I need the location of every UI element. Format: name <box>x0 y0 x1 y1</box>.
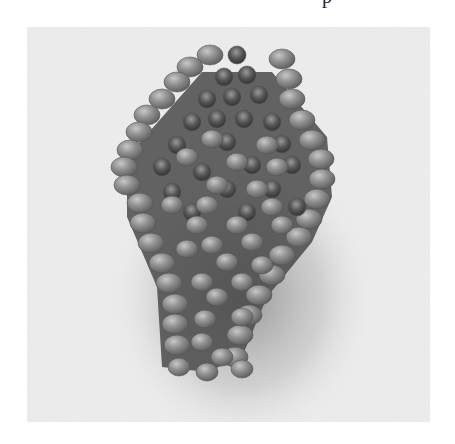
transparent-bead <box>288 198 306 216</box>
opaque-bead <box>309 169 335 189</box>
opaque-bead <box>114 175 140 195</box>
opaque-bead <box>191 333 213 351</box>
opaque-bead <box>276 69 302 89</box>
opaque-bead <box>196 196 218 214</box>
opaque-bead <box>256 136 278 154</box>
opaque-bead <box>227 325 253 345</box>
opaque-bead <box>269 49 295 69</box>
opaque-bead <box>201 130 223 148</box>
opaque-bead <box>168 358 190 376</box>
opaque-bead <box>226 153 248 171</box>
opaque-bead <box>127 193 153 213</box>
opaque-bead <box>251 256 273 274</box>
beaded-leaf-photo <box>27 27 430 422</box>
transparent-bead <box>228 46 246 64</box>
opaque-bead <box>269 245 295 265</box>
opaque-bead <box>206 176 228 194</box>
opaque-bead <box>176 148 198 166</box>
opaque-bead <box>162 314 188 334</box>
opaque-bead <box>279 89 305 109</box>
opaque-bead <box>231 273 253 291</box>
opaque-bead <box>299 130 325 150</box>
opaque-bead <box>261 198 283 216</box>
opaque-bead <box>271 216 293 234</box>
opaque-bead <box>231 308 253 326</box>
transparent-bead <box>215 68 233 86</box>
transparent-bead <box>208 110 226 128</box>
opaque-bead <box>304 189 330 209</box>
opaque-bead <box>206 288 228 306</box>
opaque-bead <box>111 157 137 177</box>
opaque-bead <box>191 273 213 291</box>
transparent-bead <box>235 110 253 128</box>
opaque-bead <box>164 335 190 355</box>
opaque-bead <box>246 180 268 198</box>
opaque-bead <box>149 253 175 273</box>
opaque-bead <box>176 240 198 258</box>
opaque-bead <box>216 253 238 271</box>
opaque-bead <box>164 72 190 92</box>
transparent-bead <box>223 88 241 106</box>
opaque-bead <box>308 149 334 169</box>
opaque-bead <box>161 196 183 214</box>
opaque-bead <box>196 363 218 381</box>
opaque-bead <box>266 158 288 176</box>
transparent-bead <box>183 113 201 131</box>
opaque-bead <box>156 273 182 293</box>
opaque-bead <box>289 110 315 130</box>
opaque-bead <box>241 233 263 251</box>
transparent-bead <box>193 163 211 181</box>
transparent-bead <box>263 113 281 131</box>
transparent-bead <box>153 158 171 176</box>
opaque-bead <box>130 213 156 233</box>
opaque-bead <box>186 216 208 234</box>
opaque-bead <box>138 233 164 253</box>
opaque-bead <box>211 348 233 366</box>
opaque-bead <box>231 360 253 378</box>
transparent-bead <box>250 86 268 104</box>
transparent-bead <box>238 66 256 84</box>
opaque-bead <box>126 122 152 142</box>
transparent-bead <box>198 90 216 108</box>
opaque-bead <box>194 310 216 328</box>
opaque-bead <box>162 294 188 314</box>
caption-text-fragment: p <box>322 0 332 6</box>
opaque-bead <box>226 216 248 234</box>
photo-canvas <box>27 27 430 422</box>
opaque-bead <box>201 236 223 254</box>
